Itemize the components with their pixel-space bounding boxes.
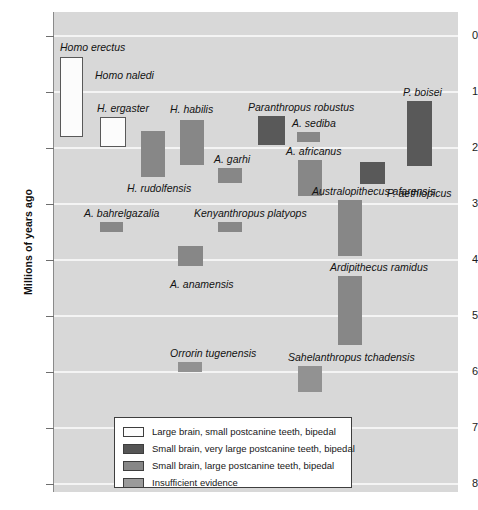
species-label: Homo erectus [60,42,125,53]
gridline [54,91,458,93]
legend-item: Insufficient evidence [123,475,343,491]
hominin-timeline-chart: Millions of years ago 012345678 Homo ere… [0,0,478,510]
y-tick-mark [46,428,54,429]
range-bar [338,276,362,345]
y-tick-mark [46,372,54,373]
range-bar [360,162,385,184]
range-bar [178,362,202,372]
y-tick-mark [46,484,54,485]
species-label: Sahelanthropus tchadensis [288,352,415,363]
y-tick-mark [46,204,54,205]
species-label: H. rudolfensis [127,183,191,194]
species-label: Homo naledi [95,70,154,81]
y-tick-mark [46,36,54,37]
legend-item: Small brain, very large postcanine teeth… [123,441,343,457]
legend-item: Large brain, small postcanine teeth, bip… [123,424,343,440]
y-tick-mark [46,316,54,317]
gridline [54,35,458,37]
legend-swatch-icon [123,427,144,437]
range-bar [141,131,165,177]
legend-swatch-icon [123,478,144,488]
species-label: A. anamensis [170,279,234,290]
range-bar [298,366,322,392]
gridline [54,147,458,149]
legend-swatch-icon [123,444,144,454]
species-label: Ardipithecus ramidus [330,262,428,273]
species-label: A. garhi [214,154,250,165]
y-tick-mark [46,148,54,149]
range-bar [338,200,362,256]
species-label: A. bahrelgazalia [84,208,159,219]
range-bar [178,246,203,266]
range-bar [297,132,320,142]
range-bar [258,116,285,145]
species-label: P. boisei [403,87,442,98]
range-bar [60,57,83,137]
range-bar [407,101,432,166]
species-label: A. sediba [292,118,336,129]
range-bar [218,222,242,232]
y-tick-mark [46,260,54,261]
range-bar [100,222,123,232]
legend-item: Small brain, large postcanine teeth, bip… [123,458,343,474]
species-label: A. africanus [286,146,341,157]
gridline [54,315,458,317]
y-tick-mark [46,92,54,93]
legend: Large brain, small postcanine teeth, bip… [114,417,352,488]
species-label: Kenyanthropus platyops [194,208,307,219]
legend-swatch-icon [123,461,144,471]
legend-label: Small brain, large postcanine teeth, bip… [152,461,334,471]
legend-label: Small brain, very large postcanine teeth… [152,444,355,454]
species-label: Australopithecus afarensis [312,186,435,197]
species-label: H. ergaster [97,103,149,114]
y-axis-title: Millions of years ago [22,162,34,322]
species-label: H. habilis [170,104,213,115]
species-label: Orrorin tugenensis [170,348,256,359]
gridline [54,203,458,205]
plot-area: Homo erectusH. ergasterH. rudolfensisH. … [54,12,458,492]
range-bar [180,120,204,165]
gridline [54,371,458,373]
range-bar [100,117,126,147]
range-bar [218,168,242,183]
legend-label: Large brain, small postcanine teeth, bip… [152,427,336,437]
legend-label: Insufficient evidence [152,478,238,488]
species-label: Paranthropus robustus [248,102,354,113]
